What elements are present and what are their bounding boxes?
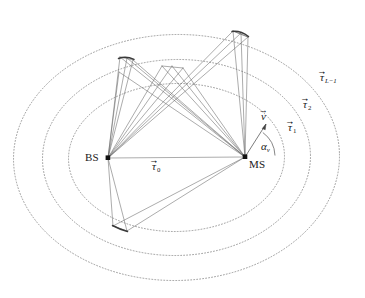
- ray-ul-ms-3: [133, 60, 245, 157]
- vector-arrow-icon: →: [300, 94, 309, 103]
- label-tau-2: →τ′2: [303, 98, 311, 112]
- bs-label: BS: [85, 152, 99, 163]
- velocity-vector-arrowhead: [262, 124, 266, 130]
- ray-ul-ms-1: [120, 57, 245, 157]
- figure-canvas: [0, 0, 365, 298]
- ray-um-ms-2: [172, 66, 245, 157]
- ray-bs-um-2: [108, 66, 172, 158]
- vector-arrow-icon: →: [317, 67, 326, 76]
- multipath-ellipse-figure: BS MS →τ′0 →τ′1 →τ′2 →τ′L−1 →v αv: [0, 0, 365, 298]
- bs-marker: [106, 155, 111, 160]
- ray-bs-ur-2: [108, 33, 241, 158]
- label-velocity: →v: [261, 111, 266, 122]
- label-alpha-v: αv: [261, 141, 270, 154]
- ray-bs-ur-1: [108, 31, 233, 158]
- tau-L-subscript: L−1: [325, 77, 337, 84]
- label-tau-0: →τ′0: [152, 160, 160, 174]
- ms-label: MS: [249, 159, 265, 170]
- ray-bs-ur-3: [108, 37, 248, 158]
- label-tau-1: →τ′1: [288, 121, 296, 135]
- vector-arrow-icon: →: [259, 106, 268, 115]
- alpha-subscript: v: [267, 146, 270, 153]
- ray-ll-ms-2: [127, 157, 245, 231]
- tau-2-subscript: 2: [308, 104, 311, 111]
- ray-ur-ms-3: [245, 37, 248, 157]
- line-of-sight: [108, 157, 245, 158]
- vector-arrow-icon: →: [285, 117, 294, 126]
- vector-arrow-icon: →: [149, 156, 158, 165]
- label-tau-L-1: →τ′L−1: [320, 71, 337, 85]
- ray-um-ms-1: [162, 66, 245, 157]
- ray-ll-ms-1: [113, 157, 245, 226]
- ray-path-group: [108, 31, 248, 231]
- scatterer-arc-lower-left: [113, 226, 128, 232]
- ray-bs-ul-4: [108, 72, 119, 158]
- tau-L-symbol: →τ: [320, 72, 324, 83]
- tau-1-symbol: →τ: [288, 122, 292, 133]
- ms-marker: [243, 154, 248, 159]
- tau-2-symbol: →τ: [303, 99, 307, 110]
- tau-1-subscript: 1: [293, 127, 296, 134]
- tau-0-symbol: →τ: [152, 161, 156, 172]
- ray-bs-um-1: [108, 66, 162, 158]
- ray-ul-ms-2: [127, 58, 245, 157]
- ray-ul-ms-4: [119, 72, 245, 157]
- tau-0-subscript: 0: [157, 166, 160, 173]
- velocity-symbol: →v: [261, 111, 266, 122]
